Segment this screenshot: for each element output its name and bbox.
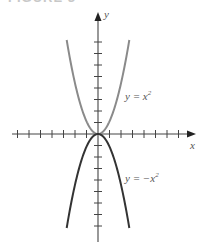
y-axis xyxy=(94,12,102,242)
x-axis-arrow-icon xyxy=(187,131,196,138)
x-axis-label: x xyxy=(189,139,195,151)
y-axis-arrow-icon xyxy=(95,12,102,21)
y-axis-label: y xyxy=(103,8,109,20)
lower-curve-label: y = −x2 xyxy=(124,171,159,184)
parabola-chart: y x y = x2 y = −x2 xyxy=(0,0,203,247)
upper-curve-label: y = x2 xyxy=(124,89,152,102)
